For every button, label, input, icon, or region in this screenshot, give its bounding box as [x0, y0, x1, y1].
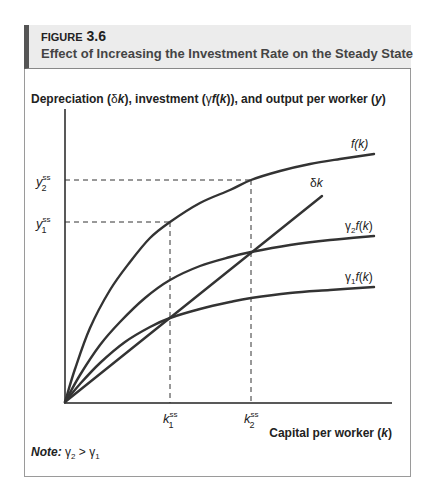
- curve-1fk: [65, 287, 374, 402]
- x-axis-label: Capital per worker (k): [269, 426, 392, 440]
- y2ss-label: yss2: [35, 173, 51, 193]
- curve-2fk: [65, 236, 374, 402]
- k2ss-label: kss2: [244, 410, 259, 430]
- fk-label: f(k): [351, 137, 368, 151]
- curves: [65, 154, 374, 402]
- g2fk-label: γ2f(k): [345, 219, 373, 235]
- note: Note: γ2 > γ1: [31, 445, 100, 461]
- g1fk-label: γ1f(k): [345, 270, 373, 286]
- k1ss-label: kss1: [163, 410, 178, 430]
- y1ss-label: yss1: [35, 215, 51, 235]
- y-axis-label: Depreciation (δk), investment (γf(k)), a…: [31, 92, 386, 106]
- chart: Depreciation (δk), investment (γf(k)), a…: [0, 0, 434, 497]
- dk-label: δk: [310, 176, 324, 190]
